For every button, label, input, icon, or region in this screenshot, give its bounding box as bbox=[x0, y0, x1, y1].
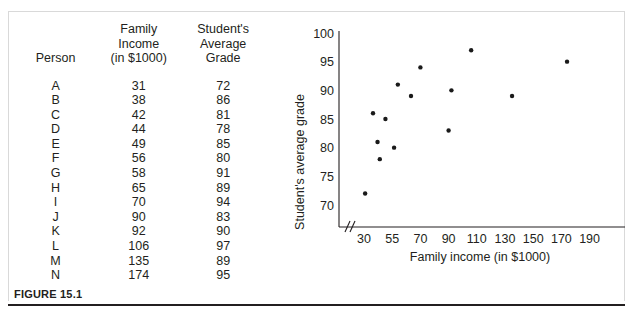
cell-family-income: 49 bbox=[97, 137, 180, 152]
column-header-student-average-grade: Student's Average Grade bbox=[180, 22, 266, 66]
header-income-line-2: Income bbox=[97, 37, 180, 52]
header-income-line-1: Family bbox=[97, 22, 180, 37]
y-tick-label: 100 bbox=[313, 27, 334, 41]
cell-average-grade: 91 bbox=[180, 166, 266, 181]
cell-average-grade: 94 bbox=[180, 195, 266, 210]
y-tick-label: 75 bbox=[320, 170, 334, 184]
cell-person: D bbox=[14, 122, 97, 137]
table-spacer-row bbox=[14, 66, 266, 79]
table-header-row: Person Family Income (in $1000) Student'… bbox=[14, 22, 266, 66]
data-point bbox=[418, 65, 422, 69]
data-point bbox=[446, 128, 450, 132]
cell-person: B bbox=[14, 93, 97, 108]
table-row: M13589 bbox=[14, 254, 266, 269]
cell-average-grade: 89 bbox=[180, 254, 266, 269]
cell-family-income: 44 bbox=[97, 122, 180, 137]
table-row: C4281 bbox=[14, 108, 266, 123]
cell-person: M bbox=[14, 254, 97, 269]
data-point bbox=[371, 111, 375, 115]
cell-person: N bbox=[14, 268, 97, 283]
cell-person: I bbox=[14, 195, 97, 210]
cell-person: L bbox=[14, 239, 97, 254]
table-row: F5680 bbox=[14, 151, 266, 166]
cell-family-income: 31 bbox=[97, 79, 180, 94]
cell-family-income: 38 bbox=[97, 93, 180, 108]
figure-caption: FIGURE 15.1 bbox=[14, 288, 82, 300]
cell-average-grade: 78 bbox=[180, 122, 266, 137]
cell-average-grade: 86 bbox=[180, 93, 266, 108]
data-point bbox=[510, 94, 514, 98]
data-point bbox=[409, 94, 413, 98]
data-table: Person Family Income (in $1000) Student'… bbox=[14, 22, 266, 283]
data-point bbox=[449, 88, 453, 92]
cell-average-grade: 80 bbox=[180, 151, 266, 166]
header-person-line-1: Person bbox=[14, 51, 97, 66]
data-point bbox=[378, 157, 382, 161]
cell-average-grade: 97 bbox=[180, 239, 266, 254]
cell-person: A bbox=[14, 79, 97, 94]
caption-rule bbox=[8, 304, 625, 306]
cell-average-grade: 89 bbox=[180, 181, 266, 196]
cell-family-income: 135 bbox=[97, 254, 180, 269]
cell-family-income: 106 bbox=[97, 239, 180, 254]
table-row: K9290 bbox=[14, 224, 266, 239]
cell-average-grade: 85 bbox=[180, 137, 266, 152]
cell-family-income: 70 bbox=[97, 195, 180, 210]
table-row: L10697 bbox=[14, 239, 266, 254]
table-body: A3172B3886C4281D4478E4985F5680G5891H6589… bbox=[14, 66, 266, 283]
cell-person: F bbox=[14, 151, 97, 166]
data-point bbox=[565, 59, 569, 63]
y-tick-label: 70 bbox=[320, 199, 334, 213]
cell-family-income: 92 bbox=[97, 224, 180, 239]
cell-average-grade: 90 bbox=[180, 224, 266, 239]
cell-person: E bbox=[14, 137, 97, 152]
cell-person: G bbox=[14, 166, 97, 181]
header-grade-line-2: Average bbox=[180, 37, 266, 52]
cell-family-income: 58 bbox=[97, 166, 180, 181]
y-tick-label: 80 bbox=[320, 141, 334, 155]
y-tick-label: 85 bbox=[320, 113, 334, 127]
data-point bbox=[396, 82, 400, 86]
x-tick-label: 55 bbox=[385, 232, 399, 246]
x-axis-ticks: 30557090110130150170190 bbox=[357, 232, 600, 246]
column-header-family-income: Family Income (in $1000) bbox=[97, 22, 180, 66]
data-point bbox=[363, 191, 367, 195]
x-tick-label: 190 bbox=[579, 232, 600, 246]
cell-person: C bbox=[14, 108, 97, 123]
cell-family-income: 42 bbox=[97, 108, 180, 123]
cell-family-income: 174 bbox=[97, 268, 180, 283]
header-income-line-3: (in $1000) bbox=[97, 51, 180, 66]
table-row: J9083 bbox=[14, 210, 266, 225]
x-tick-label: 170 bbox=[551, 232, 572, 246]
data-point bbox=[392, 145, 396, 149]
table-row: A3172 bbox=[14, 79, 266, 94]
cell-average-grade: 81 bbox=[180, 108, 266, 123]
x-tick-label: 70 bbox=[413, 232, 427, 246]
cell-family-income: 90 bbox=[97, 210, 180, 225]
x-tick-label: 130 bbox=[495, 232, 516, 246]
y-tick-label: 90 bbox=[320, 84, 334, 98]
cell-family-income: 65 bbox=[97, 181, 180, 196]
table-row: G5891 bbox=[14, 166, 266, 181]
y-axis-ticks: 707580859095100 bbox=[313, 27, 334, 213]
data-point bbox=[375, 140, 379, 144]
x-tick-label: 110 bbox=[467, 232, 487, 246]
header-grade-line-1: Student's bbox=[180, 22, 266, 37]
header-grade-line-3: Grade bbox=[180, 51, 266, 66]
x-tick-label: 90 bbox=[442, 232, 456, 246]
table-row: I7094 bbox=[14, 195, 266, 210]
cell-average-grade: 95 bbox=[180, 268, 266, 283]
x-axis-title: Family income (in $1000) bbox=[410, 250, 550, 264]
scatter-plot-svg: Student's average grade Family income (i… bbox=[290, 12, 628, 290]
data-point bbox=[469, 48, 473, 52]
cell-person: K bbox=[14, 224, 97, 239]
table-row: B3886 bbox=[14, 93, 266, 108]
x-tick-label: 30 bbox=[357, 232, 371, 246]
scatter-plot: Student's average grade Family income (i… bbox=[290, 12, 628, 290]
table-row: E4985 bbox=[14, 137, 266, 152]
data-points bbox=[363, 48, 569, 196]
cell-family-income: 56 bbox=[97, 151, 180, 166]
data-point bbox=[383, 117, 387, 121]
table-row: D4478 bbox=[14, 122, 266, 137]
y-tick-label: 95 bbox=[320, 55, 334, 69]
